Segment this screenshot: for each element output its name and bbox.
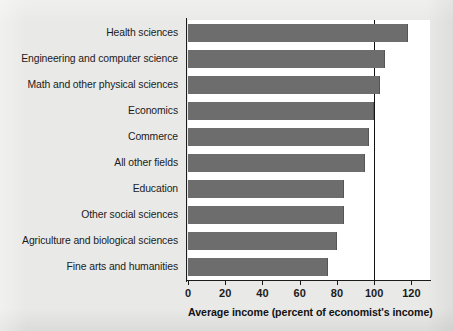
x-axis-tick [300, 280, 301, 285]
x-axis-tick [188, 280, 189, 285]
x-axis-tick-label: 20 [219, 287, 231, 299]
x-axis-tick-label: 40 [256, 287, 268, 299]
x-axis-title: Average income (percent of economist's i… [188, 306, 432, 318]
bar-chart-figure: Health sciencesEngineering and computer … [0, 0, 453, 331]
bar [188, 180, 344, 198]
x-axis-tick [374, 280, 375, 285]
bar [188, 50, 385, 68]
x-axis-tick-label: 100 [365, 287, 383, 299]
bar [188, 258, 328, 276]
x-axis-tick-label: 0 [185, 287, 191, 299]
category-label: Commerce [128, 131, 178, 143]
category-label: Math and other physical sciences [28, 79, 178, 91]
x-axis-tick [411, 280, 412, 285]
plot-area [188, 20, 430, 280]
x-axis-tick [225, 280, 226, 285]
x-axis-tick [262, 280, 263, 285]
x-axis-tick-label: 60 [294, 287, 306, 299]
category-label: Economics [128, 105, 178, 117]
x-axis-tick-label: 120 [402, 287, 420, 299]
category-label: All other fields [114, 157, 178, 169]
category-axis-labels: Health sciencesEngineering and computer … [0, 20, 184, 280]
category-label: Education [133, 183, 178, 195]
bar [188, 128, 369, 146]
bar [188, 154, 365, 172]
y-axis-line [186, 18, 187, 282]
bar [188, 76, 380, 94]
category-label: Health sciences [106, 27, 178, 39]
bar [188, 232, 337, 250]
bar [188, 206, 344, 224]
x-axis-tick [337, 280, 338, 285]
category-label: Agriculture and biological sciences [22, 235, 178, 247]
category-label: Fine arts and humanities [67, 261, 178, 273]
x-axis-line [187, 280, 431, 281]
category-label: Engineering and computer science [21, 53, 178, 65]
bar [188, 102, 374, 120]
category-label: Other social sciences [81, 209, 178, 221]
bar [188, 24, 408, 42]
x-axis-tick-label: 80 [331, 287, 343, 299]
